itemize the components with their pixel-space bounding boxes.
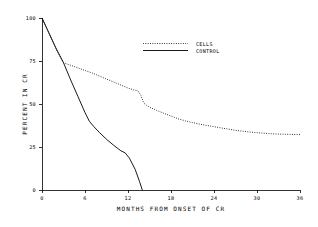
series-line-control	[42, 18, 142, 190]
x-axis-title: MONTHS FROM ONSET OF CR	[117, 205, 225, 212]
y-tick-label: 75	[29, 58, 36, 64]
x-tick-label: 36	[297, 195, 304, 201]
y-tick-label: 0	[33, 187, 36, 193]
x-axis-group: 061218243036	[40, 190, 303, 201]
y-tick-group: 0255075100	[26, 15, 42, 193]
y-tick-label: 100	[26, 15, 36, 21]
series-line-cells	[42, 18, 300, 134]
x-tick-label: 6	[83, 195, 86, 201]
x-tick-label: 30	[254, 195, 261, 201]
x-tick-group: 061218243036	[40, 190, 303, 201]
x-tick-label: 0	[40, 195, 43, 201]
legend: CELLS CONTROL	[143, 41, 220, 54]
legend-label-cells: CELLS	[196, 41, 213, 47]
series-group	[42, 18, 300, 190]
chart-figure: 0255075100 061218243036 PERCENT IN CR MO…	[0, 0, 318, 227]
y-tick-label: 25	[29, 144, 36, 150]
y-tick-label: 50	[29, 101, 36, 107]
y-axis-title: PERCENT IN CR	[21, 73, 28, 134]
chart-canvas: 0255075100 061218243036 PERCENT IN CR MO…	[0, 0, 318, 227]
x-tick-label: 12	[125, 195, 132, 201]
y-axis-group: 0255075100	[26, 15, 42, 193]
x-tick-label: 24	[211, 195, 218, 201]
legend-label-control: CONTROL	[196, 48, 220, 54]
x-tick-label: 18	[168, 195, 175, 201]
